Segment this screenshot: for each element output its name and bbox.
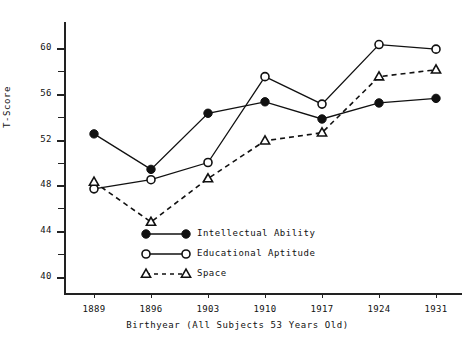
y-tick-label: 44 — [22, 225, 52, 235]
y-tick-label: 40 — [22, 271, 52, 281]
legend-marker — [140, 264, 192, 284]
marker-open-triangle — [374, 72, 383, 80]
marker-open-circle — [90, 185, 98, 193]
marker-filled-circle — [318, 115, 326, 123]
marker-open-circle — [182, 250, 190, 258]
marker-open-triangle — [203, 174, 212, 182]
x-tick-label: 1924 — [357, 304, 401, 314]
marker-open-triangle — [431, 65, 440, 73]
y-tick-label: 56 — [22, 88, 52, 98]
x-tick-label: 1910 — [243, 304, 287, 314]
x-tick-label: 1889 — [72, 304, 116, 314]
series-intellectual-ability — [90, 94, 440, 173]
legend-marker — [140, 224, 192, 244]
legend-item: Intellectual Ability — [140, 224, 370, 244]
legend-item: Space — [140, 264, 370, 284]
x-tick-label: 1903 — [186, 304, 230, 314]
series-space — [89, 65, 440, 225]
chart-figure: T-Score 404448525660 1889189619031910191… — [0, 0, 475, 343]
x-tick-label: 1931 — [414, 304, 458, 314]
marker-open-circle — [147, 176, 155, 184]
marker-open-triangle — [260, 136, 269, 144]
marker-filled-circle — [204, 109, 212, 117]
marker-open-circle — [375, 41, 383, 49]
marker-filled-circle — [261, 98, 269, 106]
y-tick-label: 60 — [22, 42, 52, 52]
legend-label: Educational Aptitude — [197, 248, 315, 258]
marker-filled-circle — [182, 230, 190, 238]
marker-filled-circle — [90, 130, 98, 138]
marker-open-triangle — [181, 269, 190, 277]
x-axis-title: Birthyear (All Subjects 53 Years Old) — [0, 320, 475, 330]
x-tick-label: 1917 — [300, 304, 344, 314]
marker-open-circle — [261, 73, 269, 81]
marker-filled-circle — [147, 165, 155, 173]
x-tick-label: 1896 — [129, 304, 173, 314]
series-line — [94, 70, 436, 222]
series-line — [94, 45, 436, 189]
marker-filled-circle — [142, 230, 150, 238]
marker-filled-circle — [432, 94, 440, 102]
marker-open-triangle — [89, 177, 98, 185]
series-line — [94, 98, 436, 169]
marker-open-triangle — [141, 269, 150, 277]
y-axis-title: T-Score — [2, 86, 12, 128]
legend-item: Educational Aptitude — [140, 244, 370, 264]
legend-label: Space — [197, 268, 227, 278]
marker-open-circle — [204, 159, 212, 167]
chart-legend: Intellectual AbilityEducational Aptitude… — [140, 224, 370, 286]
y-tick-label: 52 — [22, 134, 52, 144]
series-educational-aptitude — [90, 41, 440, 193]
legend-label: Intellectual Ability — [197, 228, 315, 238]
marker-open-circle — [318, 100, 326, 108]
y-tick-label: 48 — [22, 179, 52, 189]
legend-marker — [140, 244, 192, 264]
marker-open-circle — [142, 250, 150, 258]
marker-open-circle — [432, 45, 440, 53]
marker-filled-circle — [375, 99, 383, 107]
